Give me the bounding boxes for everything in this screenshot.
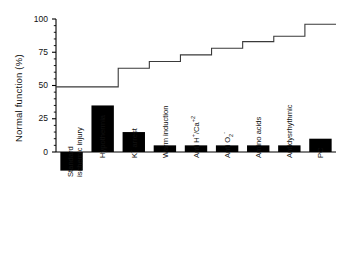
x-axis-category-label: Warm induction <box>162 106 171 158</box>
x-axis-category-label: PC <box>317 147 326 158</box>
x-axis-category-label: Amino acids <box>255 117 264 158</box>
x-axis-category-label: Standardischemic injury <box>67 127 84 177</box>
x-axis-category-label: Anti O2- <box>224 132 233 158</box>
chart-figure: Normal function (%) 0255075100 Standardi… <box>0 0 342 254</box>
x-axis-category-label: Anti H+/Ca+2 <box>193 116 202 158</box>
cumulative-step-line <box>56 24 336 87</box>
x-axis-category-label: K+ arrest <box>131 128 140 158</box>
x-axis-category-label: Hypothermia <box>99 115 108 158</box>
x-axis-category-label: Antidysrhythmic <box>286 104 295 158</box>
